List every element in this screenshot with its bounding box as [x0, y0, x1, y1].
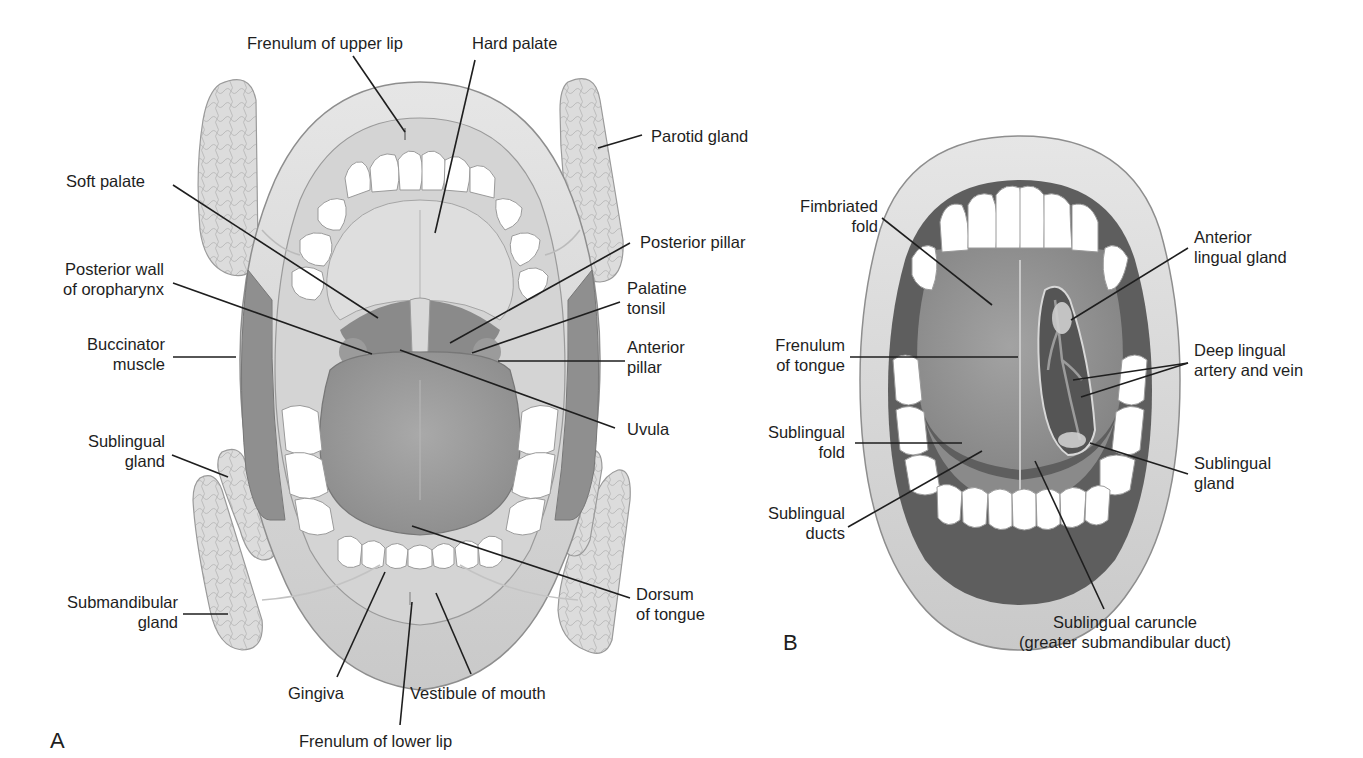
label-frenulum-upper-lip: Frenulum of upper lip: [247, 33, 403, 53]
label-frenulum-of-tongue: Frenulum of tongue: [740, 335, 845, 375]
label-sublingual-caruncle: Sublingual caruncle (greater submandibul…: [1005, 612, 1245, 652]
label-anterior-pillar: Anterior pillar: [627, 337, 685, 377]
label-gingiva: Gingiva: [288, 683, 344, 703]
label-dorsum-of-tongue: Dorsum of tongue: [636, 584, 705, 624]
oral-cavity-figure: Frenulum of upper lip Hard palate Paroti…: [0, 0, 1363, 758]
panel-a-illustration: [193, 79, 630, 690]
label-fimbriated-fold: Fimbriated fold: [770, 196, 878, 236]
label-hard-palate: Hard palate: [472, 33, 557, 53]
label-parotid-gland: Parotid gland: [651, 126, 748, 146]
label-vestibule-of-mouth: Vestibule of mouth: [410, 683, 546, 703]
label-palatine-tonsil: Palatine tonsil: [627, 278, 687, 318]
label-sublingual-ducts: Sublingual ducts: [740, 503, 845, 543]
label-anterior-lingual-gland: Anterior lingual gland: [1194, 227, 1287, 267]
label-sublingual-fold: Sublingual fold: [740, 422, 845, 462]
parotid-gland-left: [198, 80, 258, 276]
label-posterior-wall-oropharynx: Posterior wall of oropharynx: [30, 259, 164, 299]
label-sublingual-gland-a: Sublingual gland: [60, 431, 165, 471]
label-deep-lingual-artery-vein: Deep lingual artery and vein: [1194, 340, 1303, 380]
label-posterior-pillar: Posterior pillar: [640, 232, 745, 252]
label-uvula: Uvula: [627, 419, 669, 439]
label-frenulum-lower-lip: Frenulum of lower lip: [299, 731, 452, 751]
label-sublingual-gland-b: Sublingual gland: [1194, 453, 1271, 493]
panel-letter-a: A: [50, 728, 65, 754]
label-soft-palate: Soft palate: [66, 171, 145, 191]
label-buccinator-muscle: Buccinator muscle: [60, 334, 165, 374]
label-submandibular-gland: Submandibular gland: [30, 592, 178, 632]
panel-letter-b: B: [783, 630, 798, 656]
panel-b-illustration: [860, 136, 1180, 650]
